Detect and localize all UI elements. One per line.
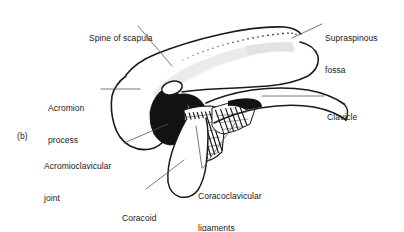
label-supraspinous-fossa-line2: fossa: [325, 65, 378, 76]
label-spine-of-scapula: Spine of scapula: [89, 12, 153, 65]
figure-page: Spine of scapula Supraspinous fossa Acro…: [0, 0, 404, 231]
label-acromioclavicular-joint: Acromioclavicular joint: [44, 140, 111, 224]
label-supraspinous-fossa: Supraspinous fossa: [325, 12, 378, 96]
label-clavicle-line1: Clavicle: [327, 112, 357, 123]
panel-label-b: (b): [17, 110, 28, 163]
label-supraspinous-fossa-line1: Supraspinous: [325, 33, 378, 44]
label-coracoid-process-line1: Coracoid: [122, 213, 156, 224]
label-spine-of-scapula-line1: Spine of scapula: [89, 33, 153, 44]
label-acromioclavicular-joint-line2: joint: [44, 193, 111, 204]
label-acromion-process-line1: Acromion: [48, 103, 84, 114]
label-coracoclavicular-ligaments-line1: Coracoclavicular: [198, 191, 262, 202]
label-coracoclavicular-ligaments: Coracoclavicular ligaments: [198, 170, 262, 231]
label-coracoid-process: Coracoid process: [122, 192, 156, 231]
label-coracoclavicular-ligaments-line2: ligaments: [198, 223, 262, 232]
label-clavicle: Clavicle: [327, 91, 357, 144]
panel-label-b-text: (b): [17, 131, 28, 142]
label-acromioclavicular-joint-line1: Acromioclavicular: [44, 161, 111, 172]
